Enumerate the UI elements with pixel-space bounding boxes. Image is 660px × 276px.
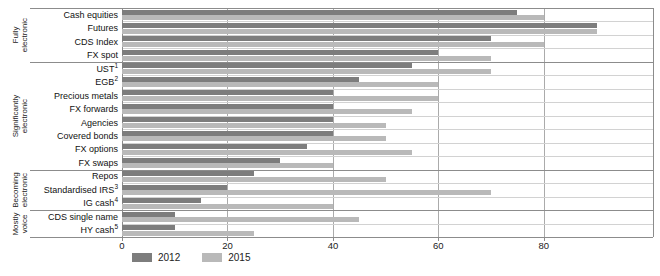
x-tick-label-20: 20 bbox=[212, 240, 242, 251]
bar-2015-fx-swaps bbox=[122, 163, 333, 168]
group-label-fully-electronic: Fully electronic bbox=[11, 10, 29, 60]
plot-right-border bbox=[653, 8, 654, 237]
legend-swatch-2012 bbox=[132, 253, 152, 262]
bar-2012-repos bbox=[122, 171, 254, 176]
bar-2015-agencies bbox=[122, 123, 386, 128]
bar-2015-precious-metals bbox=[122, 96, 438, 101]
bar-2012-futures bbox=[122, 23, 597, 28]
group-label-becoming-electronic: Becoming electronic bbox=[11, 172, 29, 208]
footnote-marker: 4 bbox=[114, 196, 118, 203]
bar-2015-ig-cash bbox=[122, 204, 333, 209]
bar-2015-cds-index bbox=[122, 42, 544, 47]
bar-2015-fx-spot bbox=[122, 56, 491, 61]
bar-2012-fx-forwards bbox=[122, 104, 333, 109]
bar-2012-precious-metals bbox=[122, 90, 333, 95]
group-label-significantly-electronic: Significantly electronic bbox=[11, 64, 29, 168]
bar-2015-egb bbox=[122, 82, 438, 87]
grouped-horizontal-bar-chart: Cash equitiesFuturesCDS IndexFX spotUST1… bbox=[0, 0, 660, 276]
bar-2012-cds-index bbox=[122, 36, 491, 41]
bar-2012-covered-bonds bbox=[122, 131, 333, 136]
bar-2012-agencies bbox=[122, 117, 333, 122]
legend-item-2015: 2015 bbox=[202, 252, 250, 263]
footnote-marker: 2 bbox=[114, 75, 118, 82]
bar-2015-fx-options bbox=[122, 150, 412, 155]
footnote-marker: 1 bbox=[114, 62, 118, 69]
legend-swatch-2015 bbox=[202, 253, 222, 262]
x-tick-label-0: 0 bbox=[107, 240, 137, 251]
bar-2015-standardised-irs bbox=[122, 190, 491, 195]
x-tick-label-80: 80 bbox=[529, 240, 559, 251]
bar-2015-futures bbox=[122, 29, 597, 34]
footnote-marker: 5 bbox=[114, 223, 118, 230]
x-tick-label-40: 40 bbox=[318, 240, 348, 251]
bar-2015-covered-bonds bbox=[122, 136, 386, 141]
bar-2015-hy-cash bbox=[122, 231, 254, 236]
chart-legend: 20122015 bbox=[132, 252, 251, 263]
gridline-x-80 bbox=[544, 8, 545, 237]
bar-2012-fx-options bbox=[122, 144, 307, 149]
bar-2012-egb bbox=[122, 77, 359, 82]
bar-2015-fx-forwards bbox=[122, 109, 412, 114]
legend-item-2012: 2012 bbox=[132, 252, 180, 263]
row-separator-line bbox=[122, 197, 653, 198]
bar-2012-hy-cash bbox=[122, 225, 175, 230]
bar-2012-cash-equities bbox=[122, 10, 517, 15]
bar-2012-fx-swaps bbox=[122, 158, 280, 163]
group-label-mostly-voice: Mostly voice bbox=[11, 212, 29, 236]
bar-2015-cash-equities bbox=[122, 15, 544, 20]
footnote-marker: 3 bbox=[114, 183, 118, 190]
bar-2015-cds-single-name bbox=[122, 217, 359, 222]
bar-2012-standardised-irs bbox=[122, 185, 227, 190]
x-axis-line bbox=[30, 237, 653, 238]
bar-2012-ig-cash bbox=[122, 198, 201, 203]
bar-2012-cds-single-name bbox=[122, 212, 175, 217]
bar-2012-ust bbox=[122, 63, 412, 68]
bar-2015-repos bbox=[122, 177, 386, 182]
bar-2015-ust bbox=[122, 69, 491, 74]
bar-2012-fx-spot bbox=[122, 50, 438, 55]
row-separator-line bbox=[122, 224, 653, 225]
x-tick-label-60: 60 bbox=[423, 240, 453, 251]
legend-label-2012: 2012 bbox=[158, 252, 180, 263]
legend-label-2015: 2015 bbox=[228, 252, 250, 263]
